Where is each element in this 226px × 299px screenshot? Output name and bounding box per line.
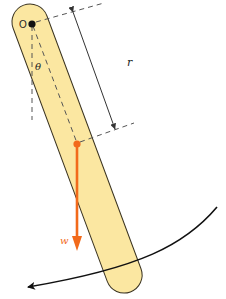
r-extension-top [36,3,104,22]
physical-pendulum-diagram: O θ r w [0,0,226,299]
weight-label: w [60,235,69,246]
pivot-point [28,20,35,27]
pivot-label: O [19,19,27,30]
center-of-mass-point [73,140,80,147]
distance-label: r [127,56,133,69]
angle-label: θ [35,61,41,72]
